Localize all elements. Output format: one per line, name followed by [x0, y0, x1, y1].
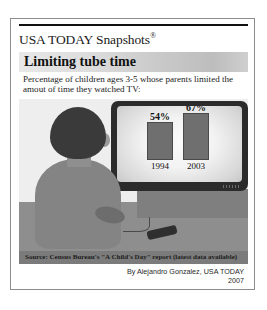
- source-band: Source: Census Bureau's "A Child's Day" …: [19, 251, 248, 264]
- headline: Limiting tube time: [19, 52, 248, 72]
- bar-value-label: 54%: [147, 111, 173, 122]
- bar-rect: [147, 122, 173, 160]
- brand-title-text: USA TODAY Snapshots: [19, 32, 150, 47]
- cable: [123, 217, 150, 232]
- byline-year: 2007: [127, 276, 244, 285]
- source-credit: Source: Census Bureau's "A Child's Day" …: [19, 251, 248, 264]
- bar-rect: [183, 113, 209, 160]
- child-figure: [33, 107, 125, 251]
- byline: By Alejandro Gonzalez, USA TODAY 2007: [127, 267, 244, 285]
- usa-today-snapshot-card: USA TODAY Snapshots® Limiting tube time …: [10, 18, 255, 290]
- child-head: [50, 107, 106, 159]
- bar-group: 54% 1994: [147, 111, 173, 172]
- child-body: [35, 159, 121, 249]
- bar-group: 67% 2003: [183, 106, 209, 172]
- tv-screen: 54% 1994 67% 2003: [117, 106, 242, 182]
- tv-stand: [137, 189, 248, 218]
- deck-subtitle: Percentage of children ages 3-5 whose pa…: [23, 74, 247, 95]
- bar-category-label: 2003: [183, 160, 209, 172]
- illustration: 54% 1994 67% 2003: [19, 99, 248, 251]
- bar-chart: 54% 1994 67% 2003: [117, 106, 242, 182]
- byline-credit: By Alejandro Gonzalez, USA TODAY: [127, 267, 244, 276]
- brand-title: USA TODAY Snapshots®: [19, 26, 248, 47]
- bar-category-label: 1994: [147, 160, 173, 172]
- bar-value-label: 67%: [183, 106, 209, 113]
- headline-band: Limiting tube time: [19, 52, 248, 72]
- brand-header: USA TODAY Snapshots®: [19, 24, 248, 47]
- tv-speaker-grille-icon: [223, 185, 239, 188]
- television: 54% 1994 67% 2003: [111, 101, 248, 191]
- registered-trademark-icon: ®: [150, 31, 156, 40]
